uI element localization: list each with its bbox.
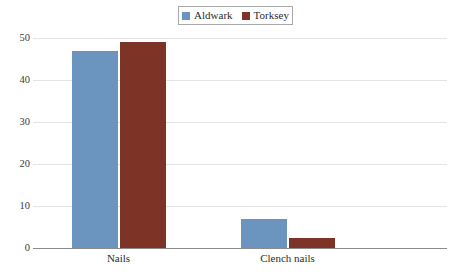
x-axis-tick-label: Nails: [59, 253, 179, 264]
y-axis-tick-label: 30: [4, 117, 30, 128]
y-axis-tick-label: 10: [4, 201, 30, 212]
y-axis-tick-label: 0: [4, 243, 30, 254]
y-axis-tick-label: 20: [4, 159, 30, 170]
y-axis-tick-label: 40: [4, 75, 30, 86]
bar-aldwark-nails[interactable]: [72, 51, 118, 248]
bar-aldwark-clench-nails[interactable]: [241, 219, 287, 248]
bars-layer: [33, 0, 447, 248]
bar-torksey-nails[interactable]: [120, 42, 166, 248]
y-axis: 50403020100: [0, 0, 30, 277]
bar-torksey-clench-nails[interactable]: [289, 238, 335, 249]
x-axis-tick-label: Clench nails: [228, 253, 348, 264]
y-axis-tick-label: 50: [4, 33, 30, 44]
x-axis-line: [33, 248, 447, 249]
bar-chart: Aldwark Torksey 50403020100 NailsClench …: [0, 0, 455, 277]
